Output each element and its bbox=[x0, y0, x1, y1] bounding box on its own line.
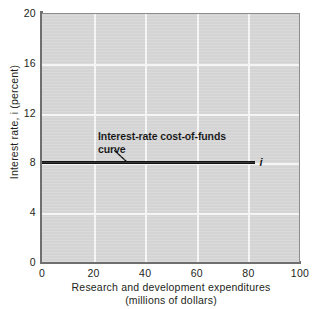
x-tick-label: 0 bbox=[22, 267, 62, 279]
gridline-horizontal bbox=[42, 213, 299, 215]
x-tick-label: 60 bbox=[177, 267, 217, 279]
x-axis-title-line-1: Research and development expenditures bbox=[42, 281, 300, 294]
y-axis-title: Interest rate, i (percent) bbox=[8, 42, 20, 202]
x-tick-label: 20 bbox=[74, 267, 114, 279]
gridline-horizontal bbox=[42, 64, 299, 66]
annotation-line-2: curve bbox=[98, 143, 258, 156]
x-axis-title-line-2: (millions of dollars) bbox=[42, 294, 300, 307]
x-tick-label: 100 bbox=[280, 267, 315, 279]
curve-annotation-text: Interest-rate cost-of-funds curve bbox=[98, 130, 258, 156]
gridline-vertical bbox=[94, 14, 96, 262]
annotation-line-1: Interest-rate cost-of-funds bbox=[98, 130, 258, 143]
y-tick-label: 4 bbox=[6, 206, 36, 218]
x-axis-title: Research and development expenditures (m… bbox=[42, 281, 300, 307]
y-tick-label: 20 bbox=[6, 7, 36, 19]
gridline-horizontal bbox=[42, 114, 299, 116]
interest-rate-cost-of-funds-curve bbox=[42, 161, 255, 164]
series-symbol-label: i bbox=[259, 156, 262, 168]
x-tick-label: 40 bbox=[125, 267, 165, 279]
chart-figure: i Interest-rate cost-of-funds curve 20 1… bbox=[0, 0, 315, 309]
plot-area: i Interest-rate cost-of-funds curve bbox=[42, 13, 300, 262]
x-tick-label: 80 bbox=[228, 267, 268, 279]
